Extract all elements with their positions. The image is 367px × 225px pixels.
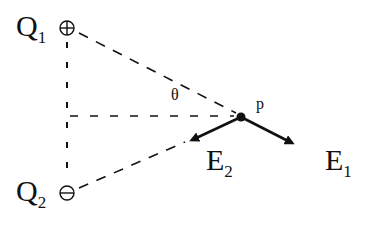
e2-vector-arrow xyxy=(192,117,241,140)
q1-to-p-dashed-line xyxy=(79,33,236,113)
field-e2-label: E2 xyxy=(206,145,233,180)
negative-charge-icon xyxy=(60,186,74,200)
point-p-dot xyxy=(237,113,246,122)
diagram-canvas xyxy=(0,0,367,225)
q2-to-p-dashed-line xyxy=(79,142,185,188)
charge-q2-label: Q2 xyxy=(16,176,46,211)
positive-charge-icon xyxy=(60,21,74,35)
angle-theta-label: θ xyxy=(171,87,179,103)
point-p-label: p xyxy=(256,96,264,112)
e1-vector-arrow xyxy=(241,117,292,143)
field-e1-label: E1 xyxy=(325,145,352,180)
charge-q1-label: Q1 xyxy=(16,11,46,46)
